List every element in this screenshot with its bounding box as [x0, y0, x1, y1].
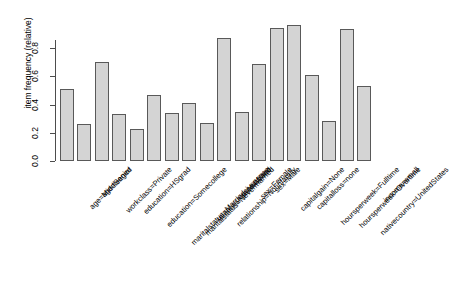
plot-area [58, 20, 373, 161]
bar [77, 124, 91, 161]
bar [217, 38, 231, 161]
y-axis-tick [50, 161, 55, 162]
y-axis-tick-label: 0.4 [30, 92, 40, 118]
bar [182, 103, 196, 162]
bar [340, 29, 354, 161]
y-axis-tick-label: 0.2 [30, 120, 40, 146]
bar [60, 89, 74, 161]
y-axis-line [55, 40, 56, 161]
y-axis-tick [50, 48, 55, 49]
bar [95, 62, 109, 161]
bar [305, 75, 319, 161]
bar [200, 123, 214, 161]
bar [270, 28, 284, 161]
bar [322, 121, 336, 161]
bar [357, 86, 371, 161]
y-axis-tick-label: 0.8 [30, 35, 40, 61]
bar [252, 64, 266, 161]
bar [112, 114, 126, 161]
bar [130, 129, 144, 161]
y-axis-tick-label: 0.6 [30, 63, 40, 89]
x-axis-tick-label: age=Senior [100, 165, 134, 199]
y-axis-tick-label: 0.0 [30, 148, 40, 174]
y-axis-tick [50, 76, 55, 77]
bar [165, 113, 179, 161]
bar [287, 25, 301, 161]
y-axis-tick [50, 133, 55, 134]
bar [235, 112, 249, 161]
y-axis-tick [50, 105, 55, 106]
bar [147, 95, 161, 161]
